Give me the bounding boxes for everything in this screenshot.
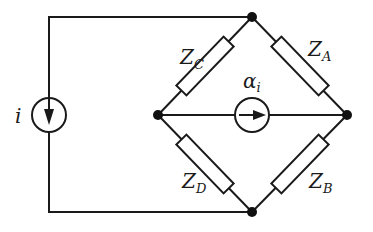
dependent-current-source-icon [235,98,269,132]
node-bottom [247,207,257,217]
node-left [153,110,163,120]
node-right [342,110,352,120]
label-zb: ZB [308,169,332,196]
label-alpha-i: αi [243,69,261,95]
label-za: ZA [307,37,331,64]
current-source-icon [32,98,66,132]
label-source-i: i [15,104,21,128]
label-zc: ZC [179,45,204,72]
circuit-diagram: i ZC ZA ZD ZB αi [0,0,373,232]
node-top [247,12,257,22]
